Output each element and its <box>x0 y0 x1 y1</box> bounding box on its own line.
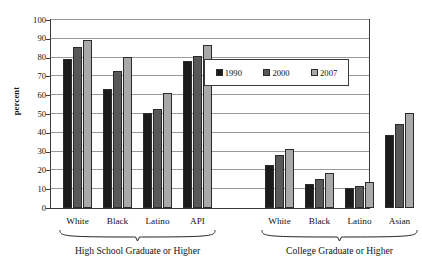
bar <box>193 56 202 208</box>
bar <box>385 135 394 208</box>
group-caption: College Graduate or Higher <box>261 245 418 256</box>
legend-label: 1990 <box>225 68 242 78</box>
bar <box>355 186 364 208</box>
group-caption: High School Graduate or Higher <box>59 245 216 256</box>
bar <box>73 47 82 208</box>
legend-label: 2007 <box>320 68 337 78</box>
legend-item[interactable]: 2007 <box>311 68 337 78</box>
y-tick-label: 100 <box>18 16 46 25</box>
y-tick-label: 70 <box>18 72 46 81</box>
bar <box>123 57 132 208</box>
curly-brace-icon <box>261 229 418 243</box>
legend: 199020002007 <box>204 59 349 86</box>
x-category-label: API <box>173 216 223 226</box>
bar <box>63 59 72 208</box>
bar <box>315 179 324 208</box>
legend-label: 2000 <box>272 68 289 78</box>
bar <box>103 89 112 208</box>
plot-area <box>50 19 370 209</box>
bar <box>153 109 162 208</box>
y-tick-label: 80 <box>18 53 46 62</box>
y-tick-label: 10 <box>18 185 46 194</box>
y-tick-label: 30 <box>18 147 46 156</box>
bar <box>113 71 122 208</box>
bar <box>405 113 414 208</box>
bar <box>275 155 284 208</box>
bar <box>365 182 374 208</box>
bar <box>325 173 334 208</box>
legend-item[interactable]: 1990 <box>216 68 242 78</box>
y-tick-label: 20 <box>18 166 46 175</box>
legend-swatch-icon <box>311 69 318 76</box>
curly-brace-icon <box>59 229 216 243</box>
y-tick-label: 60 <box>18 91 46 100</box>
bar <box>305 184 314 208</box>
y-tick-label: 50 <box>18 110 46 119</box>
y-tick-label: 90 <box>18 34 46 43</box>
legend-swatch-icon <box>263 69 270 76</box>
bar <box>83 40 92 208</box>
y-tick-label: 0 <box>18 204 46 213</box>
bar <box>163 93 172 208</box>
gridline <box>51 19 369 20</box>
legend-item[interactable]: 2000 <box>263 68 289 78</box>
bar <box>265 165 274 208</box>
y-tick-label: 40 <box>18 128 46 137</box>
bar <box>395 124 404 208</box>
bar <box>285 149 294 208</box>
gridline <box>51 38 369 39</box>
legend-swatch-icon <box>216 69 223 76</box>
bar <box>345 188 354 208</box>
bar <box>143 113 152 208</box>
x-category-label: Asian <box>375 216 422 226</box>
bar <box>183 61 192 208</box>
